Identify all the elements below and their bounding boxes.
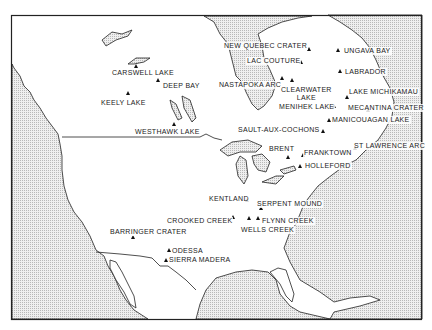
crater-marker-icon — [336, 48, 340, 52]
crater-label-lake-michikamau: LAKE MICHIKAMAU — [348, 88, 419, 96]
crater-label-serpent-mound: SERPENT MOUND — [256, 200, 323, 208]
crater-label-brent: BRENT — [268, 145, 295, 153]
lake-ontario — [280, 166, 296, 174]
crater-label-odessa: ODESSA — [171, 247, 204, 255]
crater-label-sault-aux-cochons: SAULT-AUX-COCHONS — [237, 126, 321, 134]
crater-label-kentland: KENTLAND — [208, 195, 250, 203]
crater-label-crooked-creek: CROOKED CREEK — [166, 217, 233, 225]
crater-marker-icon — [286, 155, 290, 159]
crater-marker-icon — [134, 64, 138, 68]
crater-label-franktown: FRANKTOWN — [303, 149, 353, 157]
crater-label-menihek-lake: MENIHEK LAKE — [278, 103, 335, 111]
crater-label-st-lawrence-arc: ST LAWRENCE ARC — [353, 142, 426, 150]
crater-label-wells-creek: WELLS CREEK — [240, 226, 295, 234]
crater-label-holleford: HOLLEFORD — [304, 162, 352, 170]
crater-label-nastapoka-arc: NASTAPOKA ARC — [218, 81, 282, 89]
crater-map: NEW QUEBEC CRATERUNGAVA BAYLAC COUTURELA… — [0, 0, 432, 330]
crater-marker-icon — [256, 216, 260, 220]
lake-athabasca — [128, 58, 150, 64]
crater-marker-icon — [338, 69, 342, 73]
crater-marker-icon — [156, 78, 160, 82]
lake-erie — [262, 176, 284, 184]
lake-superior — [220, 140, 262, 156]
crater-label-manicouagan-lake: MANICOUAGAN LAKE — [331, 116, 411, 124]
crater-label-clearwater-lake: CLEARWATER LAKE — [280, 86, 333, 102]
lake-huron — [252, 154, 270, 172]
crater-label-mecantina-crater: MECANTINA CRATER — [347, 104, 425, 112]
lake-winnipeg — [182, 96, 196, 122]
crater-marker-icon — [290, 78, 294, 82]
crater-marker-icon — [247, 216, 251, 220]
crater-marker-icon — [172, 122, 176, 126]
crater-label-westhawk-lake: WESTHAWK LAKE — [134, 128, 201, 136]
crater-label-sierra-madera: SIERRA MADERA — [168, 256, 231, 264]
lake-michigan — [236, 156, 248, 184]
crater-marker-icon — [321, 129, 325, 133]
crater-label-barringer-crater: BARRINGER CRATER — [109, 228, 188, 236]
crater-label-deep-bay: DEEP BAY — [162, 82, 201, 90]
crater-marker-icon — [280, 76, 284, 80]
crater-marker-icon — [298, 164, 302, 168]
crater-label-new-quebec-crater: NEW QUEBEC CRATER — [223, 42, 308, 50]
great-bear-lake — [102, 30, 132, 46]
crater-label-keely-lake: KEELY LAKE — [100, 99, 147, 107]
crater-label-carswell-lake: CARSWELL LAKE — [111, 69, 175, 77]
crater-label-flynn-creek: FLYNN CREEK — [261, 217, 315, 225]
lake-winnipegosis — [170, 100, 182, 120]
crater-label-labrador: LABRADOR — [344, 68, 387, 76]
crater-label-lac-couture: LAC COUTURE — [246, 57, 301, 65]
crater-label-ungava-bay: UNGAVA BAY — [343, 47, 392, 55]
crater-marker-icon — [126, 91, 130, 95]
